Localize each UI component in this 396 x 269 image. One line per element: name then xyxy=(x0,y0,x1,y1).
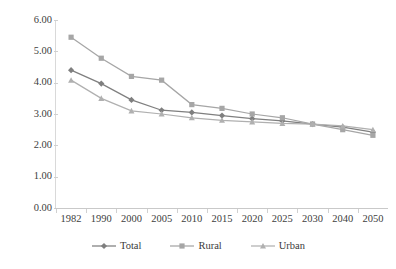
data-point-marker xyxy=(180,243,185,248)
legend-marker-icon xyxy=(91,241,117,251)
plot-area xyxy=(56,20,388,208)
data-point-marker xyxy=(370,133,375,138)
data-point-marker xyxy=(68,67,74,73)
legend-label: Urban xyxy=(279,240,305,251)
legend-item-total[interactable]: Total xyxy=(91,240,141,251)
legend-marker-icon xyxy=(250,241,276,251)
series-line xyxy=(71,70,373,132)
legend-label: Total xyxy=(120,240,141,251)
data-point-marker xyxy=(68,35,73,40)
x-axis-tick-label: 2050 xyxy=(353,213,393,224)
data-point-marker xyxy=(250,111,255,116)
chart-legend: TotalRuralUrban xyxy=(0,240,396,251)
y-axis-tick-label: 6.00 xyxy=(6,15,52,26)
data-point-marker xyxy=(99,56,104,61)
legend-item-rural[interactable]: Rural xyxy=(169,240,221,251)
data-point-marker xyxy=(280,115,285,120)
y-axis-tick-label: 0.00 xyxy=(6,203,52,214)
legend-marker-icon xyxy=(169,241,195,251)
data-point-marker xyxy=(219,106,224,111)
line-chart: 6.005.004.003.002.001.000.00 19821990200… xyxy=(0,0,396,269)
data-point-marker xyxy=(98,81,104,87)
legend-label: Rural xyxy=(198,240,221,251)
y-axis-tick-label: 3.00 xyxy=(6,109,52,120)
series-layer xyxy=(56,20,388,208)
legend-item-urban[interactable]: Urban xyxy=(250,240,305,251)
y-axis-tick-label: 4.00 xyxy=(6,77,52,88)
series-urban xyxy=(68,77,376,132)
y-axis-tick-label: 5.00 xyxy=(6,46,52,57)
data-point-marker xyxy=(68,77,74,83)
y-axis-tick-label: 2.00 xyxy=(6,140,52,151)
x-axis-line xyxy=(55,208,388,209)
data-point-marker xyxy=(129,74,134,79)
data-point-marker xyxy=(101,242,107,248)
y-axis-tick-label: 1.00 xyxy=(6,171,52,182)
data-point-marker xyxy=(159,78,164,83)
data-point-marker xyxy=(189,102,194,107)
data-point-marker xyxy=(98,95,104,101)
data-point-marker xyxy=(189,109,195,115)
data-point-marker xyxy=(128,97,134,103)
